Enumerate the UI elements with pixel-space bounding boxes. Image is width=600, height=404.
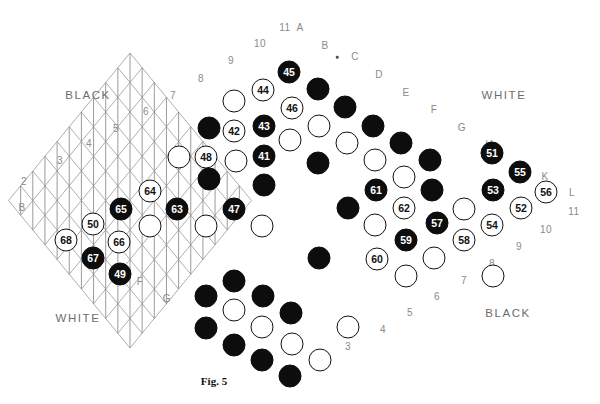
stone-move-47[interactable]: 47 [223,198,246,221]
stone-black[interactable] [279,365,302,388]
stone-black[interactable] [390,132,413,155]
edge-label-number-top-left: 11 [279,23,290,33]
edge-label-number-bottom-right: 6 [434,292,440,302]
stone-white[interactable] [336,132,359,155]
stone-move-number: 57 [431,218,443,229]
stone-white[interactable] [364,214,387,237]
stone-white[interactable] [337,316,360,339]
stone-white[interactable] [393,166,416,189]
stone-white[interactable] [225,150,248,173]
edge-label-letter-top-right: E [402,88,409,98]
stone-move-52[interactable]: 52 [510,197,533,220]
stone-black[interactable] [252,285,275,308]
stone-black[interactable] [195,317,218,340]
stone-black[interactable] [223,270,246,293]
stone-move-41[interactable]: 41 [253,145,276,168]
stone-move-62[interactable]: 62 [393,197,416,220]
stone-move-59[interactable]: 59 [395,229,418,252]
stone-black[interactable] [307,78,330,101]
stone-black[interactable] [334,96,357,119]
edge-label-letter-top-right: C [351,52,359,62]
edge-label-number-top-left: 7 [170,91,176,101]
stone-white[interactable] [364,149,387,172]
stone-move-49[interactable]: 49 [109,263,132,286]
stone-white[interactable] [223,90,246,113]
stone-move-42[interactable]: 42 [223,120,246,143]
edge-label-number-bottom-right: 3 [345,342,351,352]
stone-move-51[interactable]: 51 [481,142,504,165]
stone-move-58[interactable]: 58 [453,229,476,252]
stone-move-48[interactable]: 48 [195,146,218,169]
stone-white[interactable] [423,247,446,270]
stone-white[interactable] [482,265,505,288]
stone-move-57[interactable]: 57 [426,212,449,235]
stone-black[interactable] [419,149,442,172]
stone-move-number: 61 [370,185,382,196]
stone-black[interactable] [337,197,360,220]
stone-move-number: 43 [258,121,270,132]
stone-move-61[interactable]: 61 [365,179,388,202]
stone-white[interactable] [139,215,162,238]
stone-move-number: 56 [540,187,552,198]
stone-move-56[interactable]: 56 [535,181,558,204]
edge-label-number-bottom-right: 10 [540,225,552,235]
stone-white[interactable] [195,215,218,238]
stone-black[interactable] [280,302,303,325]
stone-move-68[interactable]: 68 [55,229,78,252]
stone-move-55[interactable]: 55 [509,161,532,184]
stone-move-number: 53 [487,185,499,196]
edge-label-letter-bottom-left: G [163,294,171,304]
stone-move-number: 41 [258,151,270,162]
stone-white[interactable] [223,299,246,322]
stone-move-45[interactable]: 45 [278,61,301,84]
stone-move-53[interactable]: 53 [482,179,505,202]
stone-move-60[interactable]: 60 [366,248,389,271]
stone-white[interactable] [279,129,302,152]
stone-move-number: 44 [257,85,269,96]
stone-move-54[interactable]: 54 [481,214,504,237]
stone-black[interactable] [362,115,385,138]
stone-white[interactable] [309,349,332,372]
stone-move-67[interactable]: 67 [82,247,105,270]
stone-white[interactable] [251,215,274,238]
edge-label-letter-top-right: B [321,41,328,51]
edge-label-number-top-left: 8 [198,74,204,84]
edge-label-letter-top-right: D [375,70,383,80]
edge-label-number-top-left: 9 [228,56,234,66]
stone-black[interactable] [421,179,444,202]
stone-black[interactable] [253,174,276,197]
stone-move-number: 52 [515,203,527,214]
stone-move-43[interactable]: 43 [253,115,276,138]
stone-move-64[interactable]: 64 [139,180,162,203]
stone-black[interactable] [195,285,218,308]
stone-move-number: 42 [228,126,240,137]
stone-move-63[interactable]: 63 [166,198,189,221]
stone-black[interactable] [223,334,246,357]
stone-white[interactable] [251,316,274,339]
stone-move-number: 48 [200,152,212,163]
stone-white[interactable] [395,265,418,288]
stone-white[interactable] [308,115,331,138]
stone-black[interactable] [198,117,221,140]
stone-move-number: 51 [486,148,498,159]
stone-move-66[interactable]: 66 [108,231,131,254]
stone-move-44[interactable]: 44 [252,79,275,102]
stone-black[interactable] [308,247,331,270]
stone-move-number: 55 [514,167,526,178]
stone-black[interactable] [198,168,221,191]
edge-label-letter-top-right: F [431,105,438,115]
edge-label-number-bottom-right: 11 [568,207,579,217]
stone-move-65[interactable]: 65 [110,198,133,221]
stone-white[interactable] [281,333,304,356]
edge-label-letter-bottom-left: F [137,277,144,287]
figure-caption: Fig. 5 [201,375,227,387]
edge-label-letter-top-right: L [569,188,575,198]
edge-label-number-top-left: 6 [143,107,149,117]
stone-move-number: 67 [87,253,99,264]
stone-move-46[interactable]: 46 [281,97,304,120]
stone-move-50[interactable]: 50 [82,213,105,236]
stone-black[interactable] [251,349,274,372]
stone-white[interactable] [453,198,476,221]
stone-black[interactable] [307,152,330,175]
stone-white[interactable] [168,146,191,169]
